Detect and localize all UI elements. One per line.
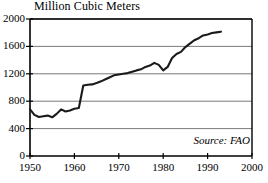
x-axis-tick-label: 2000 bbox=[235, 161, 268, 173]
plot-area bbox=[0, 0, 268, 183]
source-annotation: Source: FAO bbox=[193, 134, 250, 146]
chart-figure: Million Cubic Meters 0400800120016002000… bbox=[0, 0, 268, 183]
x-axis-tick-label: 1980 bbox=[146, 161, 180, 173]
x-axis-tick-label: 1960 bbox=[57, 161, 91, 173]
x-axis-tick-label: 1970 bbox=[102, 161, 136, 173]
x-axis-tick-label: 1990 bbox=[191, 161, 225, 173]
y-axis-tick-label: 1600 bbox=[0, 39, 25, 51]
y-axis-tick-label: 1200 bbox=[0, 67, 25, 79]
data-line-world-fish-catch bbox=[30, 32, 221, 118]
y-axis-tick-label: 800 bbox=[0, 94, 25, 106]
y-axis-tick-label: 400 bbox=[0, 122, 25, 134]
x-axis-tick-label: 1950 bbox=[13, 161, 47, 173]
y-axis-tick-label: 2000 bbox=[0, 12, 25, 24]
y-axis-tick-label: 0 bbox=[0, 149, 25, 161]
